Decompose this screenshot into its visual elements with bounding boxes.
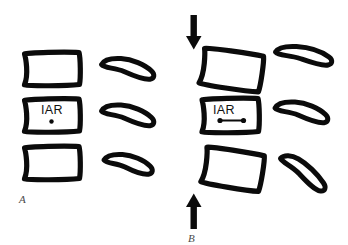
spinal-iar-figure: IAR A IAR	[0, 0, 348, 245]
panel-a-upper-vertebral-body	[25, 52, 81, 86]
figure-canvas: IAR A IAR	[0, 0, 348, 245]
panel-a-caption: A	[18, 193, 26, 205]
panel-a-lower-vertebral-body	[25, 146, 81, 180]
panel-b-iar-point-shifted	[241, 118, 246, 123]
panel-b-caption: B	[188, 232, 195, 244]
panel-b-upper-vertebral-body	[199, 47, 265, 94]
panel-a-iar-point	[49, 119, 53, 123]
panel-a-iar-label: IAR	[41, 103, 63, 117]
panel-b-iar-point-origin	[217, 118, 222, 123]
panel-b-iar-label: IAR	[213, 103, 235, 117]
panel-b-lower-vertebral-body	[201, 145, 266, 192]
